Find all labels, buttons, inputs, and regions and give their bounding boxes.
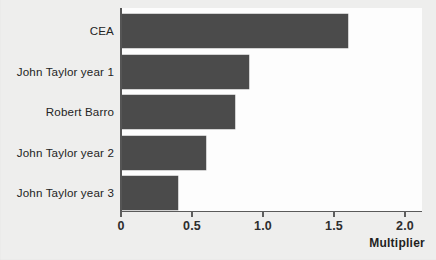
x-axis-title: Multiplier: [369, 236, 425, 250]
bar: [121, 95, 235, 129]
tick-mark: [120, 211, 121, 217]
category-label: John Taylor year 2: [0, 146, 114, 159]
bar-row: [121, 14, 348, 48]
tick-label: 0: [91, 219, 151, 233]
category-axis-labels: CEAJohn Taylor year 1Robert BarroJohn Ta…: [0, 8, 114, 211]
bar: [121, 55, 249, 89]
bar: [121, 14, 348, 48]
tick-label: 1.0: [233, 219, 293, 233]
bar-plot-area: [121, 8, 422, 211]
category-label: John Taylor year 1: [0, 65, 114, 78]
bar: [121, 176, 178, 210]
x-axis-line: [120, 211, 422, 212]
bar-row: [121, 95, 235, 129]
tick-mark: [262, 211, 263, 217]
category-label: John Taylor year 3: [0, 186, 114, 199]
tick-mark: [404, 211, 405, 217]
tick-label: 1.5: [304, 219, 364, 233]
y-axis-line: [120, 8, 122, 212]
bar-row: [121, 176, 178, 210]
tick-label: 0.5: [162, 219, 222, 233]
category-label: CEA: [0, 24, 114, 37]
tick-mark: [191, 211, 192, 217]
bar: [121, 136, 206, 170]
tick-label: 2.0: [375, 219, 435, 233]
tick-mark: [333, 211, 334, 217]
bar-row: [121, 55, 249, 89]
page-bleed-text: [0, 254, 436, 260]
figure-canvas: CEAJohn Taylor year 1Robert BarroJohn Ta…: [0, 0, 436, 260]
category-label: Robert Barro: [0, 105, 114, 118]
bar-row: [121, 136, 206, 170]
